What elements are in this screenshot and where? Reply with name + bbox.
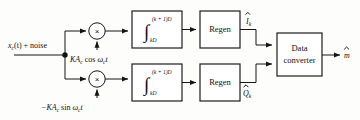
inphase-regen-block[interactable]: Regen [200, 11, 240, 48]
input-label-rest: (t) + noise [14, 41, 47, 50]
inphase-integrator-lower-limit: kD [150, 37, 157, 43]
inphase-output-sub: k [249, 21, 252, 27]
inphase-output-hat-accent [246, 12, 250, 14]
final-output-label: m [344, 47, 350, 60]
quadrature-integrator-upper-limit: (k + 1)D [152, 69, 172, 76]
inphase-lo-gain: KA [69, 55, 80, 64]
svg-text:Qk: Qk [243, 89, 252, 99]
quadrature-regen-output-wire [240, 64, 272, 83]
inphase-branch-wire [65, 31, 86, 55]
svg-text:−KAc sin ωct: −KAc sin ωct [41, 103, 84, 113]
block-diagram-figure: × × ∫ (k + 1)D kD [0, 0, 360, 120]
inphase-decision-label: Ik [245, 12, 252, 27]
inphase-lo-trig: cos [83, 55, 98, 64]
svg-text:m: m [344, 51, 350, 60]
inphase-local-oscillator-label: KAc cos ωct [69, 55, 109, 65]
quadrature-output-sub: k [249, 93, 252, 99]
quadrature-multiplier-symbol: × [95, 75, 100, 84]
data-converter-label-line2: converter [283, 55, 315, 65]
quadrature-lo-time: t [81, 103, 84, 112]
inphase-lo-time: t [106, 55, 109, 64]
data-converter-label-line1: Data [291, 43, 307, 53]
inphase-integrator-upper-limit: (k + 1)D [152, 16, 172, 23]
quadrature-multiplier[interactable]: × [89, 71, 105, 87]
input-signal-label: xc(t) + noise [7, 41, 47, 51]
data-converter-block[interactable]: Data converter [277, 33, 322, 76]
inphase-multiplier-symbol: × [95, 27, 100, 36]
inphase-regen-label: Regen [209, 24, 231, 34]
svg-text:Ik: Ik [245, 17, 252, 27]
inphase-regen-output-wire [240, 30, 272, 46]
quadrature-lo-gain: −KA [41, 103, 57, 112]
quadrature-decision-label: Qk [243, 85, 252, 99]
quadrature-regen-block[interactable]: Regen [200, 64, 240, 101]
quadrature-integrator-block[interactable]: ∫ (k + 1)D kD [132, 64, 182, 101]
quadrature-regen-label: Regen [209, 77, 231, 87]
quadrature-local-oscillator-label: −KAc sin ωct [41, 103, 84, 113]
quadrature-integrator-lower-limit: kD [150, 90, 157, 96]
inphase-multiplier[interactable]: × [89, 23, 105, 39]
svg-text:xc(t) + noise: xc(t) + noise [7, 41, 47, 51]
quadrature-lo-trig: sin [59, 103, 72, 112]
quadrature-output-hat-accent [244, 85, 249, 87]
inphase-integrator-block[interactable]: ∫ (k + 1)D kD [132, 11, 182, 48]
final-output-hat-accent [344, 47, 349, 49]
svg-text:KAc cos ωct: KAc cos ωct [69, 55, 109, 65]
